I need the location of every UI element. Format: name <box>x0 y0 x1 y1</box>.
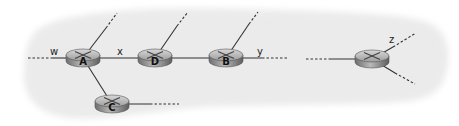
router-unlabeled <box>355 50 389 68</box>
link-label-x: x <box>117 46 123 57</box>
router-label: D <box>151 56 159 67</box>
link-label-z: z <box>389 34 394 45</box>
network-diagram: w x y z ADBC <box>0 0 459 126</box>
link-label-y: y <box>257 46 263 57</box>
router-b: B <box>209 49 243 67</box>
router-label: B <box>222 56 230 67</box>
router-label: A <box>79 56 87 67</box>
router-a: A <box>66 49 100 67</box>
router-d: D <box>138 49 172 67</box>
diagram-canvas: w x y z ADBC <box>0 0 459 126</box>
router-c: C <box>95 95 129 113</box>
link-label-w: w <box>50 46 58 57</box>
router-label: C <box>108 102 115 113</box>
